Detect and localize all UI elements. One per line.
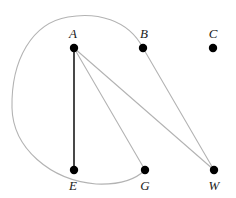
vertex-label-w: W: [209, 178, 221, 193]
graph-edge-b-w: [143, 48, 214, 170]
vertex-label-g: G: [140, 178, 150, 193]
graph-canvas: ABCEGW: [0, 0, 236, 198]
graph-vertex-e: [70, 166, 78, 174]
graph-edge-b-g: [12, 16, 145, 185]
graph-edge-a-g: [74, 48, 145, 170]
vertex-label-c: C: [209, 26, 218, 41]
graph-vertex-c: [209, 44, 217, 52]
edge-layer: [12, 16, 214, 185]
graph-vertex-g: [141, 166, 149, 174]
vertex-label-e: E: [68, 178, 77, 193]
graph-figure: ABCEGW: [0, 0, 236, 198]
graph-edge-a-w: [74, 48, 214, 170]
graph-vertex-b: [139, 44, 147, 52]
graph-vertex-w: [210, 166, 218, 174]
vertex-label-b: B: [140, 26, 148, 41]
vertex-label-a: A: [68, 26, 77, 41]
graph-vertex-a: [70, 44, 78, 52]
